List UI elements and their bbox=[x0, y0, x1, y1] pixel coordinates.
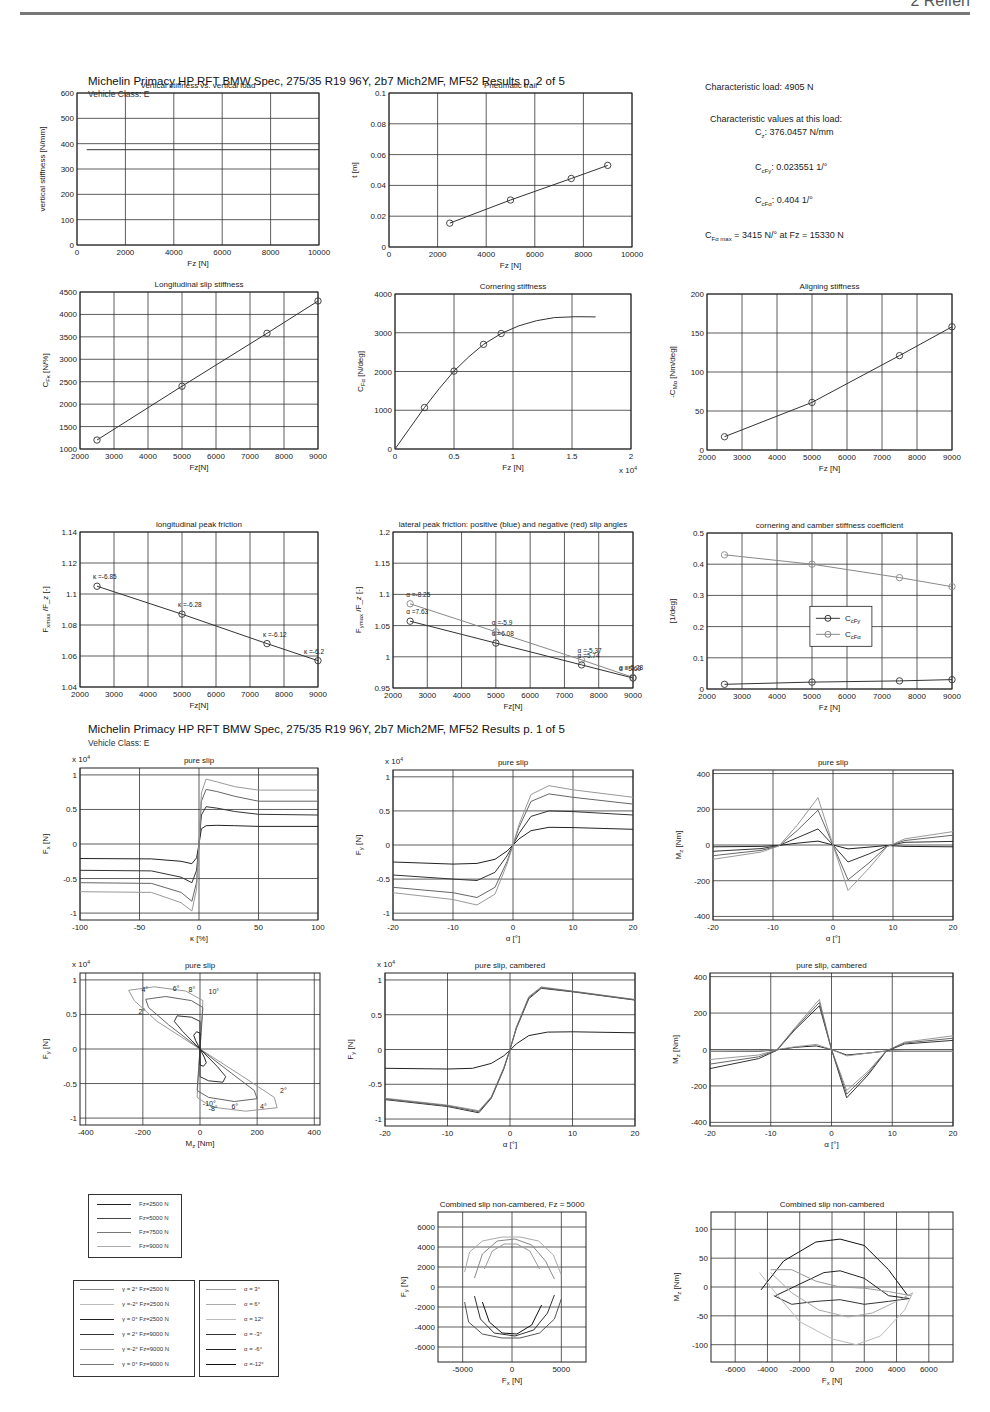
svg-text:20: 20 bbox=[949, 1129, 958, 1138]
svg-text:Fz [N]: Fz [N] bbox=[187, 259, 208, 268]
svg-text:3000: 3000 bbox=[105, 452, 123, 461]
svg-text:Fy [N]: Fy [N] bbox=[354, 835, 364, 855]
svg-text:t [m]: t [m] bbox=[350, 162, 359, 178]
legend-item: α = -6° bbox=[206, 1346, 262, 1352]
series-line bbox=[725, 680, 953, 685]
svg-text:0.4: 0.4 bbox=[693, 560, 705, 569]
svg-text:Vertical stiffness vs. vertica: Vertical stiffness vs. vertical load bbox=[140, 81, 255, 90]
svg-text:-20: -20 bbox=[387, 923, 399, 932]
svg-text:9000: 9000 bbox=[943, 692, 961, 701]
header-rule bbox=[20, 12, 970, 15]
legend-item: α = 3° bbox=[206, 1286, 260, 1292]
svg-text:4000: 4000 bbox=[59, 310, 77, 319]
svg-text:500: 500 bbox=[61, 114, 75, 123]
svg-text:0: 0 bbox=[706, 841, 711, 850]
grid bbox=[707, 294, 952, 450]
svg-text:x 104: x 104 bbox=[72, 754, 90, 764]
svg-text:Fz [N]: Fz [N] bbox=[819, 703, 840, 712]
svg-text:4000: 4000 bbox=[374, 290, 392, 299]
svg-text:-1: -1 bbox=[70, 909, 78, 918]
svg-text:1.14: 1.14 bbox=[61, 528, 77, 537]
chart-cornering-camber-coefficient: 2000300040005000600070008000900000.10.20… bbox=[657, 513, 972, 717]
svg-text:100: 100 bbox=[695, 1225, 709, 1234]
svg-text:50: 50 bbox=[695, 407, 704, 416]
svg-text:x 104: x 104 bbox=[377, 959, 395, 969]
svg-text:0.02: 0.02 bbox=[370, 212, 386, 221]
chart-pure-slip-fy: -20-1001020-1-0.500.51pure slipα [°]Fy [… bbox=[343, 750, 653, 948]
svg-text:10000: 10000 bbox=[308, 248, 331, 257]
svg-text:CFκ [N/%]: CFκ [N/%] bbox=[41, 353, 51, 387]
svg-text:0.5: 0.5 bbox=[448, 452, 460, 461]
series-line bbox=[774, 1296, 910, 1305]
svg-text:2000: 2000 bbox=[429, 250, 447, 259]
svg-text:Aligning stiffness: Aligning stiffness bbox=[800, 282, 860, 291]
legend-item: Fz=7500 N bbox=[97, 1229, 169, 1235]
svg-text:-0.5: -0.5 bbox=[63, 1080, 77, 1089]
svg-text:-1: -1 bbox=[383, 909, 391, 918]
svg-text:0.5: 0.5 bbox=[66, 1010, 78, 1019]
values-heading: Characteristic values at this load: bbox=[710, 114, 842, 124]
svg-text:κ =-6.85: κ =-6.85 bbox=[93, 573, 117, 580]
svg-text:10°: 10° bbox=[209, 988, 220, 995]
svg-text:2°: 2° bbox=[280, 1087, 287, 1094]
svg-text:Fz[N]: Fz[N] bbox=[503, 702, 522, 711]
svg-text:cornering and camber stiffness: cornering and camber stiffness coefficie… bbox=[756, 521, 904, 530]
svg-text:50: 50 bbox=[699, 1254, 708, 1263]
svg-text:pure slip, cambered: pure slip, cambered bbox=[475, 961, 545, 970]
svg-text:3000: 3000 bbox=[418, 691, 436, 700]
svg-text:-CMα [Nm/deg]: -CMα [Nm/deg] bbox=[668, 346, 678, 398]
svg-text:9000: 9000 bbox=[624, 691, 642, 700]
svg-text:1: 1 bbox=[73, 771, 78, 780]
svg-text:longitudinal peak friction: longitudinal peak friction bbox=[156, 520, 242, 529]
svg-text:-400: -400 bbox=[694, 912, 711, 921]
svg-text:pure slip: pure slip bbox=[818, 758, 849, 767]
chart-combined-slip-fx-fy: -500005000-6000-4000-20000200040006000Co… bbox=[388, 1192, 606, 1390]
legend-item: Fz=2500 N bbox=[97, 1201, 169, 1207]
svg-text:20: 20 bbox=[631, 1129, 640, 1138]
svg-text:3000: 3000 bbox=[374, 329, 392, 338]
svg-text:7000: 7000 bbox=[241, 452, 259, 461]
svg-text:2: 2 bbox=[629, 452, 634, 461]
svg-text:Fx [N]: Fx [N] bbox=[502, 1376, 522, 1386]
grid bbox=[711, 1212, 953, 1362]
data-marker bbox=[447, 220, 453, 226]
svg-text:1.06: 1.06 bbox=[61, 652, 77, 661]
svg-text:CFα [N/deg]: CFα [N/deg] bbox=[356, 351, 366, 392]
svg-text:1: 1 bbox=[378, 976, 383, 985]
svg-text:200: 200 bbox=[250, 1128, 264, 1137]
chart-pure-slip-gough: -400-2000200400-1-0.500.51pure slipMz [N… bbox=[30, 953, 340, 1153]
svg-text:0: 0 bbox=[388, 445, 393, 454]
svg-text:α [°]: α [°] bbox=[503, 1140, 518, 1149]
svg-text:0: 0 bbox=[700, 446, 705, 455]
svg-text:0: 0 bbox=[70, 241, 75, 250]
svg-text:0: 0 bbox=[704, 1283, 709, 1292]
svg-text:4000: 4000 bbox=[417, 1243, 435, 1252]
svg-text:κ =-6.28: κ =-6.28 bbox=[178, 601, 202, 608]
svg-text:2000: 2000 bbox=[117, 248, 135, 257]
svg-text:1.12: 1.12 bbox=[61, 559, 77, 568]
svg-text:2000: 2000 bbox=[59, 400, 77, 409]
svg-text:20: 20 bbox=[629, 923, 638, 932]
svg-text:α [°]: α [°] bbox=[826, 934, 841, 943]
svg-text:-200: -200 bbox=[691, 1082, 708, 1091]
svg-text:Cornering stiffness: Cornering stiffness bbox=[480, 282, 547, 291]
svg-text:2000: 2000 bbox=[417, 1263, 435, 1272]
svg-text:-20: -20 bbox=[704, 1129, 716, 1138]
svg-text:7000: 7000 bbox=[556, 691, 574, 700]
series-line bbox=[771, 1273, 913, 1317]
svg-text:α =-8.25: α =-8.25 bbox=[406, 591, 431, 598]
svg-text:4000: 4000 bbox=[768, 692, 786, 701]
svg-text:1: 1 bbox=[386, 773, 391, 782]
svg-text:5000: 5000 bbox=[552, 1365, 570, 1374]
svg-text:6000: 6000 bbox=[417, 1223, 435, 1232]
svg-text:100: 100 bbox=[691, 368, 705, 377]
svg-text:Fxmax /F_z [-]: Fxmax /F_z [-] bbox=[41, 586, 51, 632]
svg-text:0: 0 bbox=[703, 1046, 708, 1055]
svg-text:-6000: -6000 bbox=[415, 1343, 436, 1352]
svg-text:-2000: -2000 bbox=[415, 1303, 436, 1312]
svg-text:4°: 4° bbox=[260, 1103, 267, 1110]
svg-text:9000: 9000 bbox=[309, 690, 327, 699]
data-marker bbox=[721, 434, 727, 440]
chart-cornering-stiffness: 00.511.5201000200030004000Cornering stif… bbox=[345, 274, 651, 477]
svg-text:Fx [N]: Fx [N] bbox=[41, 834, 51, 854]
